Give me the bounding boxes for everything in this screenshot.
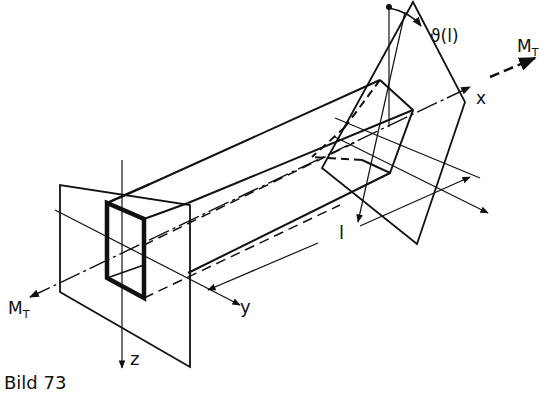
axis-z-label: z [130, 350, 139, 368]
twist-angle-label: ϑ(l) [430, 28, 459, 45]
front-cross-section [107, 203, 144, 298]
axis-x-label: x [476, 90, 486, 107]
beam-torsion-diagram [0, 0, 546, 399]
figure-caption: Bild 73 [4, 374, 66, 392]
torque-label-left: MT [8, 300, 29, 320]
axis-y-label: y [240, 298, 251, 316]
torque-label-right: MT [517, 38, 538, 58]
length-label: l [339, 224, 344, 242]
